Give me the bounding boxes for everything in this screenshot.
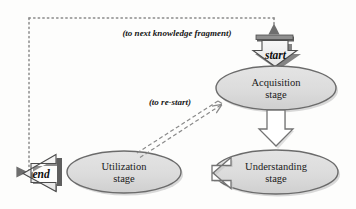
end-label: end: [32, 168, 50, 180]
acquisition-label-line2: stage: [265, 89, 287, 100]
understanding-label-line1: Understanding: [245, 161, 308, 172]
start-cap-bar: [256, 35, 293, 40]
down-block-arrow: [259, 110, 293, 146]
node-acquisition-stage[interactable]: Acquisition stage: [216, 66, 338, 113]
understanding-label-line2: stage: [265, 173, 287, 184]
diagram-canvas: start Acquisition stage Understanding st…: [0, 0, 356, 209]
start-terminal[interactable]: start: [253, 35, 301, 70]
annotation-next-knowledge-fragment: (to next knowledge fragment): [122, 28, 231, 38]
re-start-arrow-tip: [218, 101, 222, 104]
start-label: start: [264, 49, 287, 61]
re-start-line-lower: [140, 105, 221, 158]
node-utilization-stage[interactable]: Utilization stage: [67, 151, 183, 196]
end-cap-bar-shadow: [57, 158, 62, 186]
re-start-line-upper: [137, 101, 218, 153]
flowchart-diagram: start Acquisition stage Understanding st…: [0, 0, 356, 209]
utilization-label-line2: stage: [113, 173, 135, 184]
connector-acquisition-to-understanding: [259, 110, 294, 149]
acquisition-label-line1: Acquisition: [252, 77, 302, 88]
utilization-label-line1: Utilization: [102, 161, 148, 172]
connector-utilization-to-acquisition: [137, 101, 222, 158]
annotation-to-re-start: (to re-start): [149, 97, 191, 107]
